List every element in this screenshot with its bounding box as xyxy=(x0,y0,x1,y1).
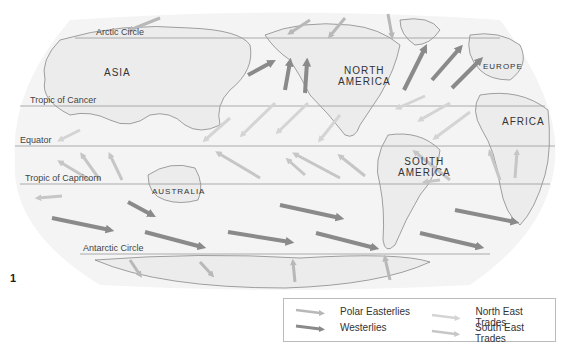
polar-easterlies-arrow-icon xyxy=(294,308,326,316)
africa-label: AFRICA xyxy=(502,116,545,127)
antarctic-circle-label: Antarctic Circle xyxy=(83,243,144,253)
australia-label: AUSTRALIA xyxy=(152,186,205,197)
north-america-label: NORTH AMERICA xyxy=(338,65,391,87)
arctic-circle-label: Arctic Circle xyxy=(96,27,144,37)
tropic-of-cancer-label: Tropic of Cancer xyxy=(30,95,96,105)
legend-polar-easterlies: Polar Easterlies xyxy=(294,306,410,317)
south-east-trades-arrow-icon xyxy=(430,329,461,337)
asia-label: ASIA xyxy=(104,67,131,78)
equator-label: Equator xyxy=(20,135,52,145)
legend: Polar Easterlies Westerlies North East T… xyxy=(283,298,556,342)
legend-westerlies: Westerlies xyxy=(294,322,387,333)
south-america-label: SOUTH AMERICA xyxy=(398,156,451,178)
europe-label: EUROPE xyxy=(483,61,523,72)
westerlies-arrow-icon xyxy=(294,324,326,332)
figure-number: 1 xyxy=(10,272,16,284)
legend-south-east-trades: South East Trades xyxy=(430,322,555,344)
north-east-trades-arrow-icon xyxy=(430,313,462,321)
tropic-of-capricorn-label: Tropic of Capricorn xyxy=(25,173,101,183)
